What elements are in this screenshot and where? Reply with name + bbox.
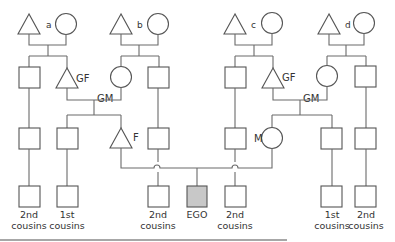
cousin-label-5-line2: cousins xyxy=(314,220,350,231)
label-mother: M xyxy=(254,133,263,144)
person-square-c-child xyxy=(225,67,246,88)
cousin-square-5 xyxy=(321,186,342,207)
label-a: a xyxy=(46,20,52,30)
couple-d: d xyxy=(318,13,375,67)
couple-a: a xyxy=(18,14,77,69)
label-gm-left: GM xyxy=(97,93,113,104)
person-square-2nd-cousin-parent-mid-left xyxy=(148,128,169,149)
cousin-label-3-line2: cousins xyxy=(140,220,176,231)
cousin-label-1-line2: cousins xyxy=(11,220,47,231)
cousin-label-2-line2: cousins xyxy=(49,220,85,231)
person-square-uncle-aunt-right xyxy=(321,128,342,149)
person-square-2nd-cousin-parent-right xyxy=(355,128,376,149)
person-square-2nd-cousin-parent-mid-right xyxy=(225,128,246,149)
female-circle-c xyxy=(262,13,283,34)
cousin-label-6-line1: 2nd xyxy=(357,209,375,220)
cousin-label-2-line1: 1st xyxy=(60,209,75,220)
label-c: c xyxy=(251,20,256,30)
female-circle-a xyxy=(56,14,77,35)
father-triangle xyxy=(110,128,132,148)
label-gf-left: GF xyxy=(76,73,90,84)
label-gm-right: GM xyxy=(303,93,319,104)
mother-circle xyxy=(262,128,283,149)
couple-c: c xyxy=(224,13,283,69)
cousin-square-2 xyxy=(57,186,78,207)
cousin-label-1-line1: 2nd xyxy=(20,209,38,220)
couple-b: b xyxy=(110,14,169,68)
grandmother-circle-right xyxy=(317,66,338,87)
label-d: d xyxy=(345,20,351,30)
cousin-label-5-line1: 1st xyxy=(325,209,340,220)
ego-square xyxy=(187,186,207,207)
person-square-2nd-cousin-parent-left xyxy=(19,128,40,149)
grandmother-circle-left xyxy=(111,67,132,88)
person-square-uncle-aunt-left xyxy=(57,128,78,149)
cousin-square-6 xyxy=(355,186,376,207)
cousin-square-4 xyxy=(225,186,246,207)
label-gf-right: GF xyxy=(282,72,296,83)
label-father: F xyxy=(133,132,139,143)
grandfather-triangle-left xyxy=(56,68,78,88)
cousin-label-4-line2: cousins xyxy=(217,220,253,231)
cousin-label-3-line1: 2nd xyxy=(149,209,167,220)
kinship-diagram: a b GF GM F c xyxy=(0,0,395,242)
cousin-label-6-line2: cousins xyxy=(348,220,384,231)
cousin-square-1 xyxy=(19,186,40,207)
female-circle-d xyxy=(354,13,375,34)
ego-label: EGO xyxy=(187,209,208,220)
male-triangle-b xyxy=(110,14,132,34)
male-triangle-a xyxy=(18,14,40,34)
person-square-b-child xyxy=(148,67,169,88)
female-circle-b xyxy=(148,14,169,35)
label-b: b xyxy=(137,20,143,30)
male-triangle-d xyxy=(318,14,340,34)
male-triangle-c xyxy=(224,14,246,34)
cousin-square-3 xyxy=(148,186,169,207)
person-square-d-child xyxy=(355,66,376,87)
cousin-label-4-line1: 2nd xyxy=(226,209,244,220)
person-square-a-child xyxy=(19,67,40,88)
grandfather-triangle-right xyxy=(262,68,284,88)
